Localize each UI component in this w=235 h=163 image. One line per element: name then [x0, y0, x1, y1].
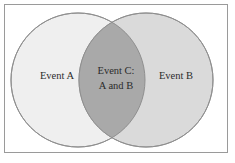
- intersection-label-line1: Event C:: [97, 65, 134, 76]
- intersection-label-line2: A and B: [99, 80, 133, 91]
- set-a-label: Event A: [40, 70, 75, 81]
- venn-diagram-canvas: Event A Event C: A and B Event B: [0, 0, 235, 163]
- set-b-label: Event B: [159, 70, 193, 81]
- venn-diagram-figure: Event A Event C: A and B Event B: [0, 0, 235, 163]
